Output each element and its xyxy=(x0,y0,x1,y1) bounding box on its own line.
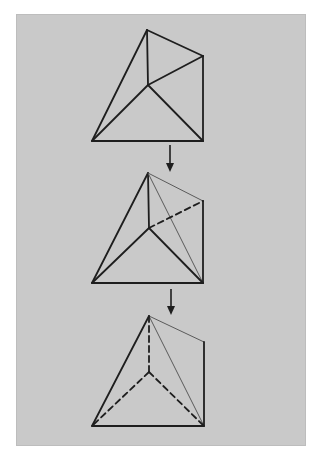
edge-apex-to-right-mid xyxy=(149,316,204,342)
figures-layer xyxy=(92,30,204,426)
figure-1 xyxy=(92,30,203,141)
edge-center-to-bottom-right xyxy=(149,228,203,283)
edge-apex-to-bottom-left xyxy=(92,30,147,141)
edge-center-to-bottom-right-hidden xyxy=(149,372,204,426)
edge-center-to-right-mid-hidden xyxy=(149,201,203,228)
edge-apex-to-bottom-left xyxy=(92,173,148,283)
page xyxy=(0,0,322,460)
edge-apex-to-bottom-left xyxy=(92,316,149,426)
figure-3 xyxy=(92,316,204,426)
edge-center-to-bottom-left-hidden xyxy=(92,372,149,426)
edge-apex-to-bottom-right xyxy=(148,173,203,283)
figure-2 xyxy=(92,173,203,283)
edge-right-mid-to-center xyxy=(148,56,203,85)
edge-apex-to-bottom-right xyxy=(149,316,204,426)
edge-apex-to-center xyxy=(148,173,149,228)
down-arrow-icon xyxy=(167,289,175,315)
edge-center-to-bottom-left xyxy=(92,228,149,283)
edge-center-to-bottom-right xyxy=(148,85,203,141)
edge-apex-to-center xyxy=(147,30,148,85)
edge-apex-to-right-mid xyxy=(147,30,203,56)
arrows-layer xyxy=(166,145,175,315)
edge-apex-to-right-mid xyxy=(148,173,203,201)
pyramid-sequence-diagram xyxy=(0,0,322,460)
down-arrow-icon xyxy=(166,145,174,172)
edge-center-to-bottom-left xyxy=(92,85,148,141)
